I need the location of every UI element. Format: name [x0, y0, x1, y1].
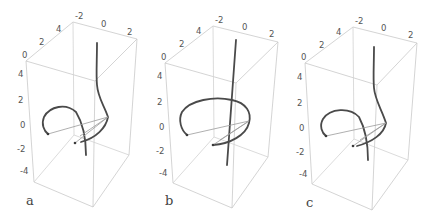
y-axis-ticks-b: 0 2 4: [161, 26, 201, 62]
x-tick: 0: [242, 22, 247, 32]
panel-label-c: c: [306, 195, 313, 210]
z-tick: 0: [20, 120, 25, 130]
z-tick: -2: [296, 147, 304, 157]
y-tick: 4: [56, 24, 61, 34]
y-tick: 2: [319, 40, 324, 50]
x-tick: 0: [101, 19, 106, 29]
panel-label-b: b: [165, 193, 173, 208]
z-tick: 4: [297, 72, 302, 82]
y-tick: 0: [22, 50, 27, 60]
y-axis-ticks-a: 0 2 4: [22, 24, 61, 60]
x-tick: 0: [381, 23, 386, 33]
x-tick: -2: [355, 16, 363, 26]
x-tick: 2: [408, 30, 413, 40]
bounding-box-a: [26, 22, 137, 207]
figure-three-3d-panels: -2 0 2 0 2 4 4 2 0 -2 -4 a: [0, 0, 437, 218]
z-tick: -2: [156, 146, 164, 156]
bounding-box-c: [305, 27, 417, 210]
y-tick: 4: [196, 26, 201, 36]
z-tick: 2: [297, 98, 302, 108]
y-tick: 2: [39, 37, 44, 47]
y-tick: 4: [336, 27, 341, 37]
z-tick: -4: [159, 168, 167, 178]
x-tick: -2: [75, 11, 83, 21]
y-tick: 0: [301, 52, 306, 62]
x-axis-ticks-a: -2 0 2: [75, 11, 132, 37]
y-tick: 2: [179, 39, 184, 49]
z-axis-ticks-c: 4 2 0 -2 -4: [296, 72, 307, 179]
z-tick: 0: [299, 123, 304, 133]
z-tick: 0: [159, 122, 164, 132]
trajectory-curve-a: [43, 43, 108, 155]
y-axis-ticks-c: 0 2 4: [301, 27, 341, 62]
panel-label-a: a: [26, 193, 34, 208]
z-tick: 4: [157, 71, 162, 81]
x-axis-ticks-b: -2 0 2: [215, 15, 274, 39]
x-tick: 2: [269, 29, 274, 39]
z-tick: -4: [20, 166, 28, 176]
z-tick: -4: [299, 169, 307, 179]
x-axis-ticks-c: -2 0 2: [355, 16, 413, 40]
x-tick: -2: [215, 15, 223, 25]
z-axis-ticks-a: 4 2 0 -2 -4: [17, 69, 28, 176]
x-tick: 2: [127, 27, 132, 37]
z-tick: 4: [18, 69, 23, 79]
panel-c: -2 0 2 0 2 4 4 2 0 -2 -4 c: [296, 16, 417, 210]
panel-b: -2 0 2 0 2 4 4 2 0 -2 -4 b: [156, 15, 278, 208]
panel-a: -2 0 2 0 2 4 4 2 0 -2 -4 a: [17, 11, 137, 208]
z-axis-ticks-b: 4 2 0 -2 -4: [156, 71, 167, 178]
z-tick: 2: [157, 97, 162, 107]
y-tick: 0: [161, 52, 166, 62]
z-tick: -2: [17, 144, 25, 154]
bounding-box-b: [165, 26, 278, 208]
z-tick: 2: [18, 95, 23, 105]
